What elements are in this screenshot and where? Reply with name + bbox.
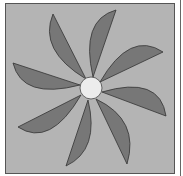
blade [100,45,163,82]
pinwheel-diagram [0,0,183,176]
blade [18,95,81,133]
blade [49,14,86,79]
blade [96,99,130,164]
hub-circle [80,77,102,99]
